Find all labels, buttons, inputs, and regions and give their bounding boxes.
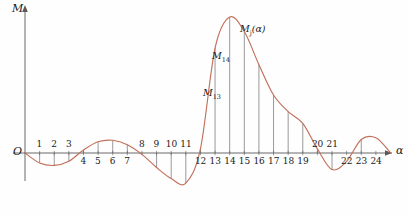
x-tick-label-20: 20 xyxy=(312,140,323,149)
x-tick-label-7: 7 xyxy=(124,157,130,166)
x-tick-label-6: 6 xyxy=(110,157,116,166)
x-tick-label-22: 22 xyxy=(341,157,352,166)
x-tick-label-15: 15 xyxy=(239,157,250,166)
x-tick-label-5: 5 xyxy=(95,157,101,166)
plot-svg xyxy=(0,0,409,215)
figure-canvas: M α O 1234567891011121314151617181920212… xyxy=(0,0,409,215)
x-tick-label-10: 10 xyxy=(166,140,177,149)
annotation-M14: M14 xyxy=(212,51,230,63)
x-tick-label-16: 16 xyxy=(253,157,264,166)
x-tick-label-9: 9 xyxy=(154,140,160,149)
annotation-M13: M13 xyxy=(203,88,221,100)
annotation-Mj-alpha: Mj(α) xyxy=(240,24,266,36)
x-tick-label-14: 14 xyxy=(224,157,235,166)
x-tick-label-23: 23 xyxy=(356,157,367,166)
annotation-base-M13: M xyxy=(203,87,213,98)
annotation-subscript-M14: 14 xyxy=(222,56,230,64)
x-tick-label-2: 2 xyxy=(51,140,57,149)
x-tick-label-17: 17 xyxy=(268,157,279,166)
x-tick-label-18: 18 xyxy=(283,157,294,166)
x-tick-label-21: 21 xyxy=(327,140,338,149)
annotation-suffix-Mj-alpha: (α) xyxy=(252,23,266,34)
origin-label: O xyxy=(13,146,22,157)
annotation-subscript-M13: 13 xyxy=(213,93,221,101)
annotation-base-M14: M xyxy=(212,50,222,61)
x-tick-label-4: 4 xyxy=(81,157,87,166)
x-tick-label-12: 12 xyxy=(195,157,206,166)
x-tick-label-11: 11 xyxy=(180,140,191,149)
y-axis-label: M xyxy=(12,3,23,14)
x-tick-label-1: 1 xyxy=(37,140,43,149)
x-tick-label-24: 24 xyxy=(370,157,381,166)
annotation-base-Mj-alpha: M xyxy=(240,23,250,34)
x-axis-label: α xyxy=(396,145,403,156)
x-tick-label-3: 3 xyxy=(66,140,72,149)
x-tick-label-19: 19 xyxy=(297,157,308,166)
x-tick-label-13: 13 xyxy=(210,157,221,166)
x-tick-label-8: 8 xyxy=(139,140,145,149)
